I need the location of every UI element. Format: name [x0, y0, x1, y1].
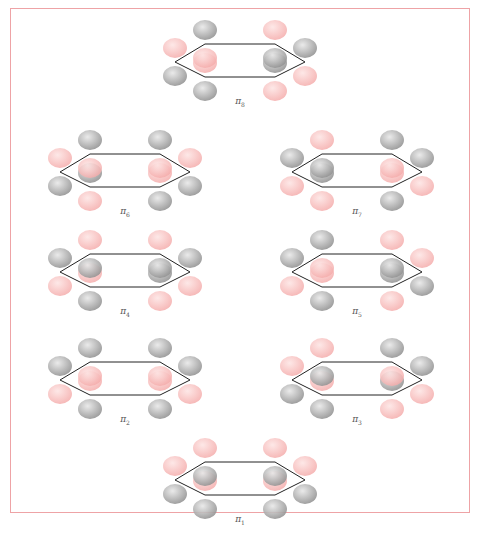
- orbital-index: 8: [241, 101, 245, 108]
- lower-lobe-3: [263, 48, 287, 68]
- orbital-pi3: π3: [262, 332, 452, 432]
- orbital-label: π1: [145, 514, 335, 526]
- upper-lobe-3: [263, 438, 287, 458]
- lower-lobe-1: [280, 384, 304, 404]
- orbital-pi6: π6: [30, 124, 220, 224]
- lower-lobe-3: [148, 158, 172, 178]
- orbital-label: π5: [262, 306, 452, 318]
- lower-lobe-3: [380, 158, 404, 178]
- upper-lobe-4: [178, 148, 202, 168]
- orbital-diagram: [262, 224, 452, 314]
- lower-lobe-3: [148, 258, 172, 278]
- orbital-label: π4: [30, 306, 220, 318]
- orbital-index: 1: [241, 519, 245, 526]
- upper-lobe-3: [148, 130, 172, 150]
- lower-lobe-1: [48, 276, 72, 296]
- lower-lobe-3: [380, 366, 404, 386]
- orbital-label: π6: [30, 206, 220, 218]
- orbital-pi2: π2: [30, 332, 220, 432]
- upper-lobe-3: [380, 338, 404, 358]
- lower-lobe-2: [78, 366, 102, 386]
- upper-lobe-3: [148, 338, 172, 358]
- lower-lobe-3: [263, 466, 287, 486]
- lower-lobe-2: [78, 158, 102, 178]
- orbital-diagram: [262, 124, 452, 214]
- upper-lobe-2: [193, 20, 217, 40]
- orbital-diagram: [145, 432, 335, 522]
- lower-lobe-4: [293, 484, 317, 504]
- lower-lobe-1: [48, 384, 72, 404]
- lower-lobe-1: [163, 66, 187, 86]
- lower-lobe-2: [193, 466, 217, 486]
- upper-lobe-1: [163, 456, 187, 476]
- lower-lobe-1: [163, 484, 187, 504]
- lower-lobe-2: [310, 258, 334, 278]
- upper-lobe-1: [280, 248, 304, 268]
- lower-lobe-4: [178, 276, 202, 296]
- orbital-diagram: [30, 224, 220, 314]
- upper-lobe-1: [163, 38, 187, 58]
- lower-lobe-4: [293, 66, 317, 86]
- upper-lobe-3: [380, 230, 404, 250]
- orbital-diagram: [145, 14, 335, 104]
- orbital-index: 7: [358, 211, 362, 218]
- lower-lobe-1: [48, 176, 72, 196]
- upper-lobe-1: [280, 356, 304, 376]
- upper-lobe-2: [78, 338, 102, 358]
- lower-lobe-3: [148, 366, 172, 386]
- upper-lobe-4: [410, 148, 434, 168]
- orbital-index: 5: [358, 311, 362, 318]
- upper-lobe-2: [310, 338, 334, 358]
- lower-lobe-4: [178, 176, 202, 196]
- upper-lobe-3: [148, 230, 172, 250]
- orbital-pi5: π5: [262, 224, 452, 324]
- orbital-pi1: π1: [145, 432, 335, 532]
- orbital-diagram: [262, 332, 452, 422]
- lower-lobe-2: [310, 366, 334, 386]
- orbital-label: π3: [262, 414, 452, 426]
- orbital-pi4: π4: [30, 224, 220, 324]
- upper-lobe-3: [380, 130, 404, 150]
- orbital-diagram: [30, 124, 220, 214]
- lower-lobe-2: [193, 48, 217, 68]
- lower-lobe-2: [78, 258, 102, 278]
- upper-lobe-2: [310, 230, 334, 250]
- upper-lobe-2: [78, 130, 102, 150]
- lower-lobe-4: [410, 276, 434, 296]
- upper-lobe-1: [48, 148, 72, 168]
- orbital-diagram: [30, 332, 220, 422]
- upper-lobe-4: [178, 356, 202, 376]
- lower-lobe-1: [280, 276, 304, 296]
- upper-lobe-2: [193, 438, 217, 458]
- upper-lobe-1: [48, 248, 72, 268]
- orbital-pi8: π8: [145, 14, 335, 114]
- lower-lobe-3: [380, 258, 404, 278]
- upper-lobe-4: [410, 248, 434, 268]
- orbital-label: π7: [262, 206, 452, 218]
- orbital-index: 4: [126, 311, 130, 318]
- lower-lobe-4: [178, 384, 202, 404]
- upper-lobe-4: [293, 38, 317, 58]
- upper-lobe-1: [280, 148, 304, 168]
- upper-lobe-4: [410, 356, 434, 376]
- orbital-pi7: π7: [262, 124, 452, 224]
- upper-lobe-4: [293, 456, 317, 476]
- orbital-index: 3: [358, 419, 362, 426]
- orbital-label: π8: [145, 96, 335, 108]
- lower-lobe-4: [410, 384, 434, 404]
- orbital-label: π2: [30, 414, 220, 426]
- orbital-index: 6: [126, 211, 130, 218]
- orbital-index: 2: [126, 419, 130, 426]
- upper-lobe-4: [178, 248, 202, 268]
- upper-lobe-2: [310, 130, 334, 150]
- lower-lobe-4: [410, 176, 434, 196]
- upper-lobe-2: [78, 230, 102, 250]
- lower-lobe-1: [280, 176, 304, 196]
- upper-lobe-3: [263, 20, 287, 40]
- lower-lobe-2: [310, 158, 334, 178]
- upper-lobe-1: [48, 356, 72, 376]
